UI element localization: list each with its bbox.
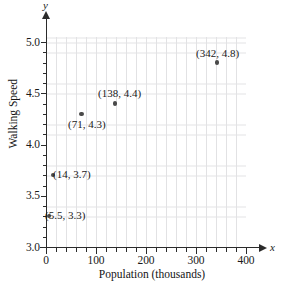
y-tick-minor [43,175,48,176]
y-tick-label: 4.5 [26,88,40,100]
x-tick-major [146,247,147,254]
y-axis-symbol: y [43,0,48,11]
x-tick-minor [66,247,67,252]
x-tick-label: 300 [188,255,205,267]
y-tick-minor [43,63,48,64]
x-tick-minor [86,247,87,252]
x-tick-major [246,247,247,254]
x-tick-minor [126,247,127,252]
y-tick-label: 4.0 [26,139,40,151]
y-tick-minor [43,186,48,187]
x-tick-major [46,247,47,254]
y-tick-minor [43,155,48,156]
y-tick-minor [43,237,48,238]
x-tick-label: 200 [138,255,155,267]
x-tick-label: 400 [238,255,255,267]
y-tick-minor [43,165,48,166]
scatter-plot-figure: y x 5.0 4.5 4.0 3.5 3.0 0 100 20 [0,0,282,285]
x-tick-minor [166,247,167,252]
x-tick-minor [106,247,107,252]
data-point-label: (342, 4.8) [196,48,239,59]
x-axis-line [40,247,260,248]
data-point [215,60,219,64]
data-point [113,101,117,105]
x-tick-major [196,247,197,254]
y-tick-label: 3.5 [26,190,40,202]
x-tick-label: 100 [88,255,105,267]
x-axis-symbol: x [270,242,275,253]
y-tick-minor [43,114,48,115]
x-tick-minor [186,247,187,252]
x-tick-minor [136,247,137,252]
y-tick-minor [43,104,48,105]
y-axis-arrowhead-icon [42,11,50,19]
x-axis-title: Population (thousands) [0,269,282,281]
y-tick-label: 5.0 [26,37,40,49]
y-tick-minor [43,83,48,84]
y-tick-label: 3.0 [26,242,40,254]
y-tick-minor [43,52,48,53]
y-tick-major [41,145,48,146]
x-tick-minor [216,247,217,252]
y-tick-minor [43,124,48,125]
x-tick-minor [206,247,207,252]
x-tick-minor [116,247,117,252]
y-tick-minor [43,134,48,135]
x-tick-major [96,247,97,254]
y-tick-minor [43,73,48,74]
x-tick-label: 0 [43,255,49,267]
x-tick-minor [226,247,227,252]
y-tick-major [41,93,48,94]
x-axis-arrowhead-icon [259,244,267,252]
data-point-label: (14, 3.7) [53,169,91,180]
data-point-label: (71, 4.3) [68,119,106,130]
y-axis-title: Walking Speed [8,44,20,184]
x-tick-minor [176,247,177,252]
data-point-label: (5.5, 3.3) [45,210,85,221]
data-point [79,112,83,116]
y-tick-minor [43,227,48,228]
y-tick-major [41,196,48,197]
x-tick-minor [56,247,57,252]
x-tick-minor [236,247,237,252]
data-point-label: (138, 4.4) [98,88,141,99]
y-tick-major [41,42,48,43]
x-tick-minor [76,247,77,252]
x-tick-minor [156,247,157,252]
y-tick-minor [43,206,48,207]
